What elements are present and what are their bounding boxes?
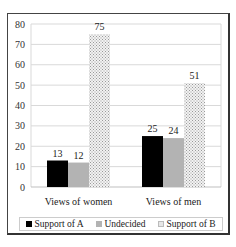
bar-value-label: 13 bbox=[53, 148, 63, 159]
bar bbox=[68, 163, 89, 187]
category-label: Views of men bbox=[146, 196, 202, 207]
y-tick-label: 0 bbox=[20, 182, 25, 193]
bar-value-label: 25 bbox=[148, 123, 158, 134]
bar-value-label: 75 bbox=[95, 21, 105, 32]
y-tick-label: 80 bbox=[15, 19, 25, 30]
legend-label: Support of A bbox=[34, 219, 83, 229]
y-tick-label: 10 bbox=[15, 161, 25, 172]
y-axis: 01020304050607080 bbox=[15, 19, 25, 193]
legend-swatch-dotted bbox=[158, 221, 164, 227]
category-labels: Views of womenViews of men bbox=[45, 196, 202, 207]
legend-label: Support of B bbox=[166, 219, 215, 229]
legend-item-support-a: Support of A bbox=[26, 219, 83, 229]
bar-value-label: 24 bbox=[169, 125, 179, 136]
bar bbox=[184, 83, 205, 187]
legend: Support of A Undecided Support of B bbox=[19, 217, 223, 231]
y-tick-label: 20 bbox=[15, 141, 25, 152]
y-tick-label: 50 bbox=[15, 80, 25, 91]
legend-swatch-gray bbox=[96, 221, 102, 227]
legend-label: Undecided bbox=[104, 219, 145, 229]
bar bbox=[163, 138, 184, 187]
bar-value-label: 51 bbox=[190, 70, 200, 81]
y-tick-label: 70 bbox=[15, 39, 25, 50]
legend-swatch-black bbox=[26, 221, 32, 227]
y-tick-label: 60 bbox=[15, 59, 25, 70]
bar-value-label: 12 bbox=[74, 150, 84, 161]
bar bbox=[142, 136, 163, 187]
category-label: Views of women bbox=[45, 196, 113, 207]
legend-item-undecided: Undecided bbox=[96, 219, 145, 229]
bar bbox=[89, 34, 110, 187]
bar bbox=[47, 161, 68, 187]
y-tick-label: 40 bbox=[15, 100, 25, 111]
legend-item-support-b: Support of B bbox=[158, 219, 215, 229]
bar-chart: 01020304050607080 131275252451 Views of … bbox=[0, 0, 236, 247]
y-tick-label: 30 bbox=[15, 120, 25, 131]
bars bbox=[47, 34, 205, 187]
